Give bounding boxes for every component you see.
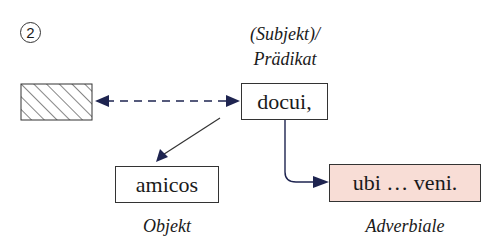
arrowhead-object-icon (156, 149, 168, 162)
connectors (0, 0, 500, 246)
object-label: Objekt (115, 216, 219, 237)
object-link (158, 118, 220, 158)
hatched-placeholder-box (21, 84, 92, 120)
arrowhead-right-icon (226, 95, 240, 107)
adverbial-link (285, 120, 314, 182)
arrowhead-adverbial-icon (313, 176, 329, 188)
diagram-canvas: 2 (Subjekt)/ Prädikat docui, amicos ubi … (0, 0, 500, 246)
object-box: amicos (115, 166, 219, 203)
arrowhead-left-icon (95, 95, 109, 107)
adverbial-box: ubi … veni. (329, 164, 481, 202)
adverbial-label: Adverbiale (329, 216, 481, 237)
predicate-box: docui, (241, 83, 328, 120)
